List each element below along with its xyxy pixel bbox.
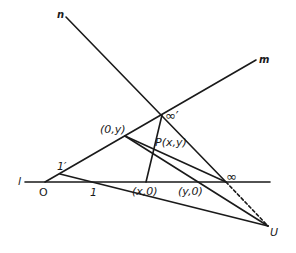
label-line-n: n	[57, 10, 64, 20]
label-point-0y: (0,y)	[100, 124, 126, 135]
label-point-P: P(x,y)	[155, 137, 187, 148]
label-point-1prime: 1′	[57, 161, 67, 172]
line-n	[66, 17, 226, 182]
label-line-m: m	[259, 55, 269, 65]
label-point-infprime: ∞′	[165, 109, 179, 122]
label-point-x0: (x,0)	[132, 186, 158, 197]
label-point-inf: ∞	[226, 170, 237, 183]
label-point-O: O	[39, 187, 48, 198]
label-point-U: U	[270, 227, 278, 238]
label-point-y0: (y,0)	[178, 186, 203, 197]
label-line-l: l	[18, 176, 21, 187]
projective-diagram	[0, 0, 296, 253]
label-point-1: 1	[90, 187, 97, 198]
